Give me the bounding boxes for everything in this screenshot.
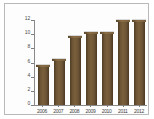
bar-cap bbox=[116, 19, 130, 22]
bar-cap bbox=[84, 31, 98, 34]
bar-slot bbox=[116, 20, 131, 105]
y-axis-tick-label: 8 bbox=[27, 44, 30, 49]
x-axis-tick-mark bbox=[58, 105, 59, 107]
y-axis-tick-label: 12 bbox=[25, 16, 30, 21]
bar-slot bbox=[132, 20, 147, 105]
x-axis-tick-mark bbox=[42, 105, 43, 107]
x-axis-tick-label: 2011 bbox=[115, 108, 130, 114]
plot-area bbox=[34, 20, 147, 106]
bar[interactable] bbox=[102, 33, 113, 105]
y-axis-tick-label: 2 bbox=[27, 87, 30, 92]
x-axis-tick: 2007 bbox=[51, 106, 66, 116]
bar-cap bbox=[100, 31, 114, 34]
bar[interactable] bbox=[134, 21, 145, 105]
bar-slot bbox=[100, 20, 115, 105]
x-axis-tick-mark bbox=[74, 105, 75, 107]
x-axis-tick-label: 2006 bbox=[35, 108, 50, 114]
y-axis-tick-label: 4 bbox=[27, 73, 30, 78]
bar-slot bbox=[68, 20, 83, 105]
x-axis-tick-mark bbox=[123, 105, 124, 107]
bar-slot bbox=[84, 20, 99, 105]
x-axis-tick-label: 2008 bbox=[67, 108, 82, 114]
x-axis-tick-mark bbox=[139, 105, 140, 107]
bar-cap bbox=[36, 64, 50, 67]
figure-frame: 024681012 2006200720082009201020112012 bbox=[4, 3, 149, 115]
bar-slot bbox=[36, 20, 51, 105]
x-axis-tick-mark bbox=[90, 105, 91, 107]
bar-cap bbox=[132, 19, 146, 22]
x-axis-tick: 2011 bbox=[115, 106, 130, 116]
bar[interactable] bbox=[54, 60, 65, 105]
x-axis-tick-mark bbox=[107, 105, 108, 107]
chart-area: 024681012 2006200720082009201020112012 bbox=[14, 11, 151, 116]
x-axis-tick: 2009 bbox=[83, 106, 98, 116]
bar-cap bbox=[52, 58, 66, 61]
y-axis-tick-label: 6 bbox=[27, 59, 30, 64]
x-axis: 2006200720082009201020112012 bbox=[34, 106, 147, 116]
chart-screenshot: 024681012 2006200720082009201020112012 bbox=[0, 0, 154, 119]
y-axis-tick-label: 10 bbox=[25, 30, 30, 35]
x-axis-tick-label: 2010 bbox=[99, 108, 114, 114]
bar-cap bbox=[68, 35, 82, 38]
x-axis-tick: 2006 bbox=[35, 106, 50, 116]
bar-slot bbox=[52, 20, 67, 105]
bar[interactable] bbox=[38, 66, 49, 105]
x-axis-tick: 2010 bbox=[99, 106, 114, 116]
y-axis-tick-label: 0 bbox=[27, 101, 30, 106]
x-axis-tick: 2012 bbox=[131, 106, 146, 116]
bar[interactable] bbox=[118, 21, 129, 105]
bar[interactable] bbox=[86, 33, 97, 105]
bar[interactable] bbox=[70, 37, 81, 105]
x-axis-tick-label: 2009 bbox=[83, 108, 98, 114]
bar-series bbox=[35, 20, 147, 105]
y-axis: 024681012 bbox=[14, 20, 34, 105]
x-axis-tick: 2008 bbox=[67, 106, 82, 116]
x-axis-tick-label: 2012 bbox=[131, 108, 146, 114]
x-axis-tick-label: 2007 bbox=[51, 108, 66, 114]
